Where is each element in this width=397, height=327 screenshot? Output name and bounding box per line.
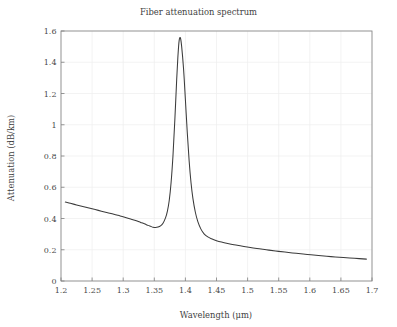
y-tick-label: 0.8 bbox=[44, 152, 57, 161]
x-tick-label: 1.25 bbox=[83, 286, 101, 295]
x-tick-label: 1.2 bbox=[55, 286, 68, 295]
x-tick-label: 1.55 bbox=[270, 286, 288, 295]
y-tick-label: 1.6 bbox=[44, 27, 57, 36]
y-tick-label: 0.6 bbox=[44, 183, 57, 192]
y-tick-label: 1.2 bbox=[44, 90, 57, 99]
x-tick-label: 1.5 bbox=[241, 286, 254, 295]
x-tick-label: 1.7 bbox=[366, 286, 379, 295]
x-tick-label: 1.65 bbox=[332, 286, 350, 295]
x-tick-label: 1.4 bbox=[179, 286, 192, 295]
y-tick-label: 0 bbox=[51, 277, 56, 286]
y-tick-label: 1 bbox=[51, 121, 56, 130]
chart-figure: 1.21.251.31.351.41.451.51.551.61.651.7 0… bbox=[0, 0, 397, 327]
y-tick-label: 1.4 bbox=[44, 58, 57, 67]
attenuation-line-chart: 1.21.251.31.351.41.451.51.551.61.651.7 0… bbox=[0, 0, 397, 327]
y-tick-label: 0.4 bbox=[44, 215, 57, 224]
chart-title: Fiber attenuation spectrum bbox=[140, 7, 257, 17]
x-tick-label: 1.45 bbox=[208, 286, 226, 295]
x-tick-label: 1.3 bbox=[117, 286, 130, 295]
y-axis-label: Attenuation (dB/km) bbox=[6, 115, 16, 202]
x-tick-label: 1.35 bbox=[145, 286, 163, 295]
figure-background bbox=[0, 0, 397, 327]
x-tick-label: 1.6 bbox=[303, 286, 316, 295]
y-tick-label: 0.2 bbox=[44, 246, 57, 255]
x-axis-label: Wavelength (μm) bbox=[180, 310, 252, 320]
